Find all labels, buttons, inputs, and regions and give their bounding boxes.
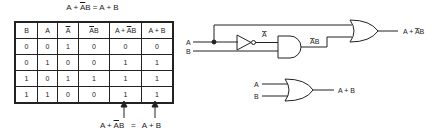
input-a-label: A (186, 39, 191, 46)
not-output-label: A (262, 31, 267, 38)
and-output-label: AB (310, 38, 320, 45)
circuit-a-plus-notab (193, 20, 398, 58)
circuit-a-plus-b (262, 79, 334, 101)
input-b-label: B (186, 48, 191, 55)
or-output-label: A + AB (403, 28, 425, 35)
input-b-label: B (254, 93, 259, 100)
or-gate (285, 79, 313, 101)
inverter-bubble (252, 41, 256, 45)
equivalence-caption: A + AB = A + B (100, 121, 161, 130)
arrow-icon (121, 101, 158, 118)
or-gate (350, 20, 378, 42)
and-gate (278, 36, 301, 58)
or-output-label: A + B (338, 87, 355, 94)
not-gate (237, 35, 251, 50)
input-a-label: A (254, 81, 259, 88)
circuit-diagrams: A B A AB A + AB A B A + B (0, 0, 443, 137)
